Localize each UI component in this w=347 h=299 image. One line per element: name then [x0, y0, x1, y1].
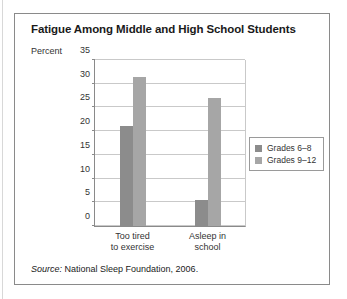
- x-axis-category-label: Too tiredto exercise: [111, 231, 155, 253]
- y-axis-unit-label: Percent: [31, 46, 62, 56]
- legend-swatch-icon: [255, 157, 262, 164]
- y-axis-tick-mark: [92, 130, 95, 131]
- gridline: [95, 225, 245, 226]
- bar: [195, 200, 208, 226]
- y-axis-tick-label: 20: [80, 116, 90, 126]
- gridline: [95, 130, 245, 131]
- y-axis-tick-mark: [92, 201, 95, 202]
- gridline: [95, 59, 245, 60]
- gridline: [95, 106, 245, 107]
- y-axis-tick-mark: [92, 178, 95, 179]
- gridline: [95, 178, 245, 179]
- source-label: Source:: [31, 264, 62, 274]
- legend-item: Grades 6–8: [255, 142, 316, 154]
- bar: [208, 98, 221, 226]
- x-axis-category-label: Asleep inschool: [189, 231, 226, 253]
- page-title: Fatigue Among Middle and High School Stu…: [31, 23, 296, 35]
- y-axis-tick-mark: [92, 225, 95, 226]
- source-note: Source: National Sleep Foundation, 2006.: [31, 264, 198, 274]
- gridline: [95, 201, 245, 202]
- figure-container: Fatigue Among Middle and High School Stu…: [14, 13, 330, 285]
- y-axis-tick-mark: [92, 59, 95, 60]
- y-axis-tick-label: 10: [80, 164, 90, 174]
- legend-swatch-icon: [255, 145, 262, 152]
- gridline: [95, 154, 245, 155]
- bar: [133, 77, 146, 226]
- source-value: National Sleep Foundation, 2006.: [62, 264, 198, 274]
- plot-area: 05101520253035Too tiredto exerciseAsleep…: [94, 60, 246, 227]
- y-axis-tick-label: 0: [85, 211, 90, 221]
- y-axis-tick-label: 15: [80, 140, 90, 150]
- bar: [120, 126, 133, 226]
- y-axis-tick-label: 30: [80, 69, 90, 79]
- y-axis-tick-mark: [92, 106, 95, 107]
- gridline: [95, 83, 245, 84]
- legend-label: Grades 9–12: [267, 155, 316, 165]
- page-edge: [2, 0, 3, 299]
- y-axis-tick-mark: [92, 154, 95, 155]
- y-axis-tick-mark: [92, 83, 95, 84]
- chart-legend: Grades 6–8 Grades 9–12: [249, 137, 324, 171]
- legend-item: Grades 9–12: [255, 154, 316, 166]
- y-axis-tick-label: 35: [80, 45, 90, 55]
- legend-label: Grades 6–8: [267, 143, 311, 153]
- y-axis-tick-label: 25: [80, 92, 90, 102]
- y-axis-tick-label: 5: [85, 187, 90, 197]
